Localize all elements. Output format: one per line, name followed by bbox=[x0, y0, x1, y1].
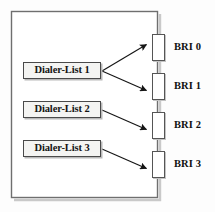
bri-3-port[interactable] bbox=[152, 151, 165, 178]
dialer-list-2-box[interactable]: Dialer-List 2 bbox=[23, 101, 101, 118]
network-diagram: Dialer-List 1 Dialer-List 2 Dialer-List … bbox=[0, 0, 215, 212]
bri-0-label: BRI 0 bbox=[174, 42, 201, 53]
bri-2-label: BRI 2 bbox=[174, 120, 201, 131]
bri-0-port[interactable] bbox=[152, 34, 165, 61]
dialer-list-3-label: Dialer-List 3 bbox=[34, 143, 89, 154]
bri-3-label: BRI 3 bbox=[174, 159, 201, 170]
bri-1-label: BRI 1 bbox=[174, 81, 201, 92]
bri-1-port[interactable] bbox=[152, 73, 165, 100]
dialer-list-2-label: Dialer-List 2 bbox=[34, 104, 89, 115]
dialer-list-3-box[interactable]: Dialer-List 3 bbox=[23, 140, 101, 157]
dialer-list-1-label: Dialer-List 1 bbox=[34, 65, 89, 76]
dialer-list-1-box[interactable]: Dialer-List 1 bbox=[23, 62, 101, 79]
bri-2-port[interactable] bbox=[152, 112, 165, 139]
